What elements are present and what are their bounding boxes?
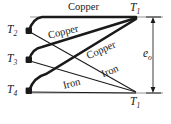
conductor-iron-T2-to-T1bot [30,32,136,92]
node-label-T1-top: T1 [130,2,140,16]
conductor-copper-T3-to-T1top [29,18,136,60]
node-label-T4: T4 [7,84,17,98]
node-label-T3: T3 [7,53,17,67]
junction-node-T4 [26,88,32,94]
emf-label: eo [143,48,152,62]
copper-label-top: Copper [68,2,99,13]
thermocouple-diagram [0,0,171,124]
junction-node-T2 [26,28,32,34]
emf-arrowhead-down [151,87,156,93]
conductor-iron-T3-to-T1bot [30,61,136,92]
node-label-T2: T2 [7,24,17,38]
conductor-copper-T4-to-T1top [29,19,136,91]
emf-arrowhead-up [151,17,156,23]
node-label-T1-bottom: T1 [130,96,140,110]
junction-node-T3 [26,57,32,63]
